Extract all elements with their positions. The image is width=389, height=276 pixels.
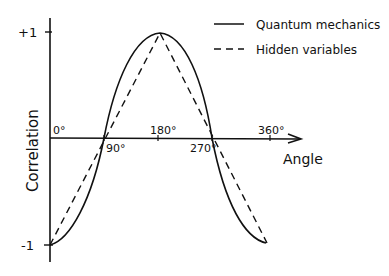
legend-label-qm: Quantum mechanics: [256, 18, 380, 32]
xtick-label-180: 180°: [150, 124, 177, 137]
legend-label-hv: Hidden variables: [256, 43, 357, 57]
xtick-label-270: 270°: [190, 142, 217, 155]
xtick-label-360: 360°: [258, 124, 285, 137]
y-axis-label: Correlation: [24, 109, 42, 192]
xtick-label-0: 0°: [53, 124, 66, 137]
x-axis: [50, 138, 300, 139]
ytick-label-neg: -1: [21, 238, 34, 253]
x-axis-label: Angle: [283, 151, 323, 167]
xtick-label-90: 90°: [106, 142, 126, 155]
ytick-label-pos: +1: [18, 25, 37, 40]
chart: Quantum mechanics Hidden variables +1 -1…: [0, 0, 389, 276]
